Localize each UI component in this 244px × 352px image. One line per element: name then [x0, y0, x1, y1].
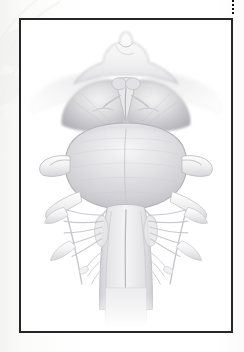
plate-page	[0, 0, 244, 352]
brainstem-ventral-view-illustration	[21, 20, 231, 331]
illustration-frame	[19, 18, 233, 333]
side-fade	[21, 23, 231, 328]
crop-mark-dotted	[232, 0, 234, 15]
